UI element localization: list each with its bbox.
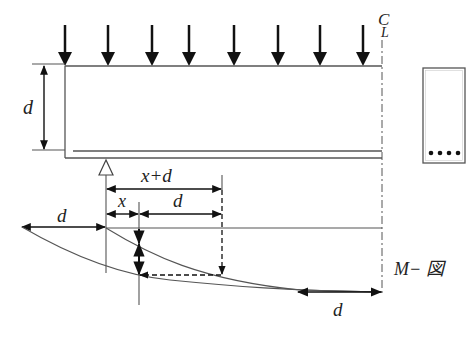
load-arrow-icon	[356, 25, 370, 66]
load-arrow-icon	[145, 25, 159, 66]
depth-dimension	[32, 64, 65, 150]
rebar-dot-icon	[438, 151, 443, 156]
moment-curve	[106, 228, 382, 292]
load-arrow-icon	[271, 25, 285, 66]
x-label: x	[117, 191, 126, 211]
x-plus-d-label: x+d	[140, 165, 172, 186]
d-shift-label: d	[57, 205, 67, 226]
d-bottom-label: d	[333, 299, 343, 320]
cross-section	[423, 68, 465, 163]
beam	[65, 66, 382, 158]
support-triangle-icon	[99, 160, 113, 175]
moment-diagram-label: M− 図	[393, 259, 447, 279]
rebar-dot-icon	[447, 151, 452, 156]
load-arrow-icon	[313, 25, 327, 66]
load-arrow-icon	[58, 25, 72, 66]
load-arrow-icon	[101, 25, 115, 66]
load-arrows	[58, 25, 370, 66]
beam-diagram: d C L x+d x d d d M− 図	[0, 0, 472, 337]
load-arrow-icon	[227, 25, 241, 66]
shifted-moment-curve	[22, 227, 382, 292]
centerline-label-l: L	[380, 25, 389, 40]
rebar-dot-icon	[429, 151, 434, 156]
load-arrow-icon	[182, 25, 196, 66]
d-mid-label: d	[173, 190, 183, 211]
depth-label: d	[23, 96, 34, 118]
rebar-dot-icon	[456, 151, 461, 156]
